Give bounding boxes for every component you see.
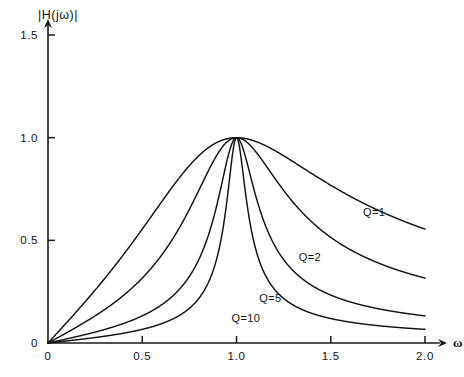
y-tick-label: 0.5 — [20, 234, 38, 246]
chart-page: 00.51.01.500.51.01.52.0 |H(jω)|ωQ=1Q=2Q=… — [0, 0, 464, 377]
x-axis-title: ω — [453, 335, 463, 350]
bandpass-magnitude-chart: 00.51.01.500.51.01.52.0 |H(jω)|ωQ=1Q=2Q=… — [0, 0, 464, 377]
label-group: |H(jω)|ωQ=1Q=2Q=5Q=10 — [38, 8, 463, 350]
x-tick-label: 1.0 — [228, 350, 246, 362]
curve-label-q2: Q=2 — [299, 251, 321, 263]
y-tick-label: 0 — [31, 337, 38, 349]
axes — [44, 19, 447, 347]
curve-label-q10: Q=10 — [232, 312, 261, 324]
x-tick-label: 2.0 — [416, 350, 434, 362]
y-tick-label: 1.5 — [20, 29, 38, 41]
curve-label-q1: Q=1 — [363, 206, 385, 218]
x-tick-label: 0 — [45, 350, 52, 362]
curve-label-q5: Q=5 — [259, 292, 281, 304]
y-tick-label: 1.0 — [20, 132, 38, 144]
x-tick-label: 0.5 — [133, 350, 151, 362]
x-tick-label: 1.5 — [322, 350, 340, 362]
y-axis-title: |H(jω)| — [38, 8, 78, 22]
